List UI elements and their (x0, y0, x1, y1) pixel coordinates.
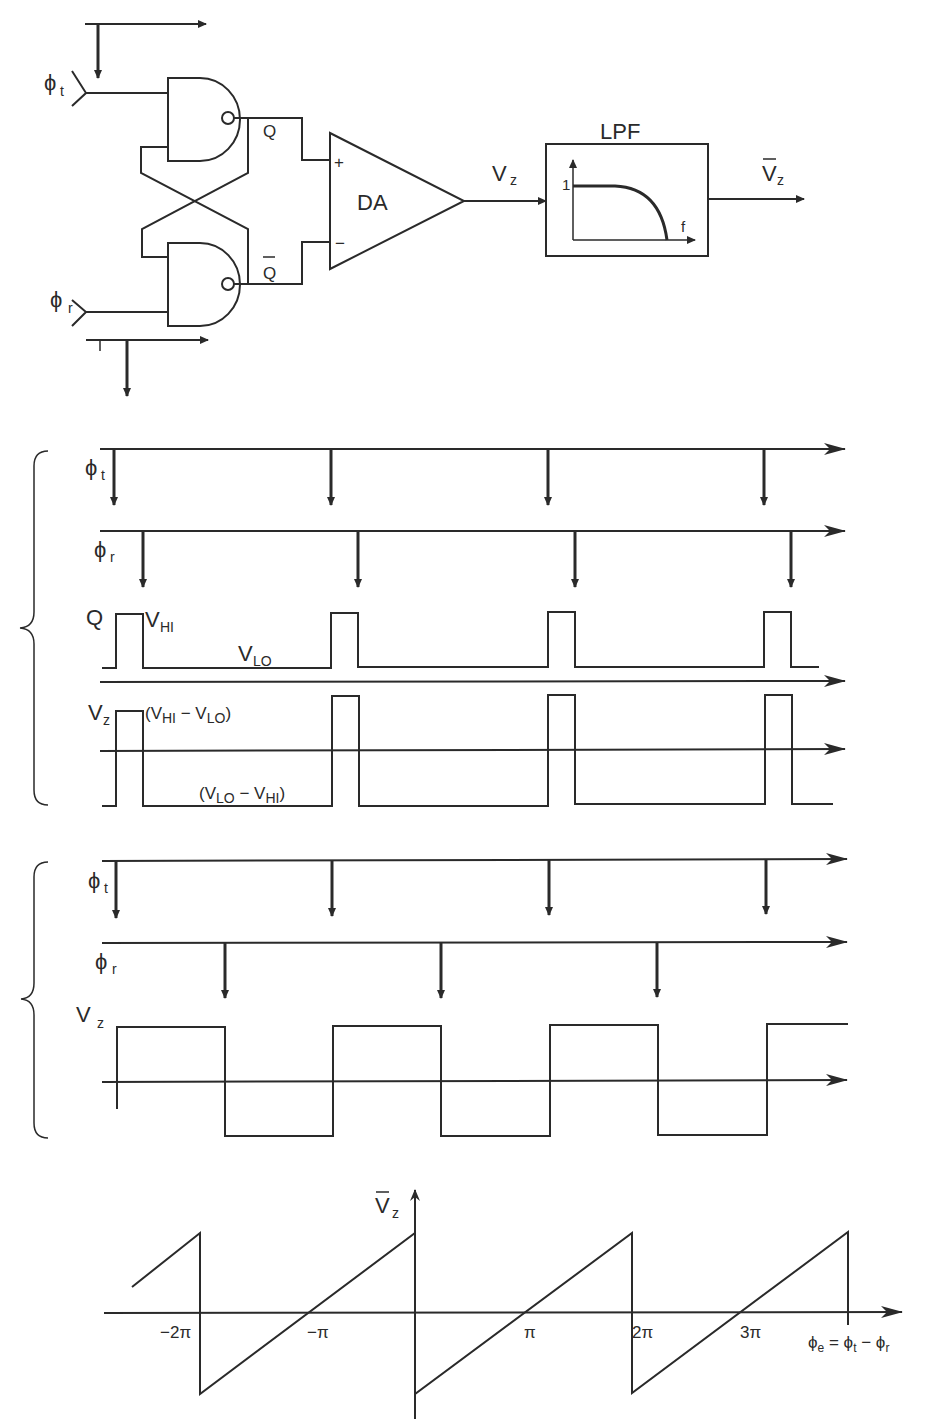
phase-detector-circuit: ϕ t ϕ r (44, 24, 804, 396)
phi-t-events (116, 859, 766, 918)
phi-r-label: ϕ (95, 949, 107, 974)
phi-t-symbol: ϕ (44, 70, 56, 95)
vz-subscript: z (510, 172, 517, 188)
tick-label-minus-pi: −π (307, 1323, 329, 1342)
phi-r-subscript: r (68, 300, 73, 316)
vlo-label-sub: LO (253, 653, 272, 669)
phi-r-label-sub: r (110, 549, 115, 565)
section-brace (20, 451, 48, 805)
cross-coupling-wires (141, 118, 330, 284)
vz-bar-output-label: V z (762, 159, 784, 188)
phi-t-events (114, 449, 764, 505)
upper-nand-gate (168, 78, 240, 161)
svg-text:z: z (392, 1205, 399, 1221)
phi-t-subscript: t (60, 83, 64, 99)
phi-r-events (225, 942, 657, 998)
x-axis-label: ϕe = ϕt − ϕr (808, 1333, 889, 1355)
amp-minus-label: − (335, 234, 345, 253)
vz-trace-label-sub: z (97, 1015, 104, 1031)
amp-plus-label: + (334, 153, 344, 172)
phi-t-event-timeline (85, 24, 206, 78)
lpf-freq-label: f (681, 218, 686, 235)
phi-r-label: ϕ (94, 537, 106, 562)
phi-t-label-sub: t (104, 880, 108, 896)
svg-text:z: z (777, 172, 784, 188)
vz-high-level-label: (VHI − VLO) (145, 704, 231, 726)
phi-r-events (143, 531, 791, 587)
lower-nand-gate (168, 243, 240, 326)
vz-label: V (492, 161, 507, 186)
lpf-response-curve (573, 186, 667, 240)
q-waveform (102, 612, 819, 668)
vz-low-level-label: (VLO − VHI) (199, 784, 285, 806)
vhi-label: V (145, 607, 160, 632)
phase-detector-transfer-plot: V z −2π −π π 2π 3π ϕe = ϕt − ϕr (104, 1190, 902, 1419)
phi-r-timeline (102, 942, 847, 943)
q-trace-label: Q (86, 605, 103, 630)
svg-text:(VHI − VLO): (VHI − VLO) (145, 704, 231, 726)
lpf-gain-label: 1 (562, 176, 570, 193)
phi-r-label-sub: r (112, 961, 117, 977)
low-pass-filter-block: LPF 1 f (546, 119, 708, 256)
vz-zero-axis (100, 749, 845, 751)
timing-diagram-large-error: ϕ t ϕ r V z (21, 859, 848, 1138)
q-label: Q (263, 122, 276, 141)
differential-amplifier: DA + − (330, 133, 464, 269)
svg-text:V: V (762, 161, 777, 186)
timing-diagram-small-error: ϕ t ϕ r Q V HI V LO V z (VHI − VLO) (VLO… (20, 449, 845, 806)
phi-t-label: ϕ (85, 455, 97, 480)
svg-text:V: V (375, 1193, 390, 1218)
x-axis (104, 1312, 902, 1313)
lpf-title: LPF (600, 119, 640, 144)
phi-t-label-sub: t (101, 467, 105, 483)
tick-label-minus-2pi: −2π (160, 1323, 191, 1342)
phi-t-input: ϕ t (44, 70, 168, 106)
phi-t-label: ϕ (88, 868, 100, 893)
amp-label: DA (357, 190, 388, 215)
vz-trace-label: V (88, 700, 103, 725)
phi-r-input: ϕ r (50, 287, 168, 326)
q-bar-label: Q (263, 257, 276, 283)
vz-zero-axis (102, 1080, 847, 1082)
y-axis-label: V z (375, 1192, 399, 1221)
svg-text:ϕe = ϕt − ϕr: ϕe = ϕt − ϕr (808, 1333, 889, 1355)
tick-label-pi: π (524, 1323, 536, 1342)
q-time-axis (100, 681, 845, 682)
svg-text:Q: Q (263, 264, 276, 283)
vlo-label: V (238, 641, 253, 666)
diagram-canvas: ϕ t ϕ r (0, 0, 927, 1426)
tick-label-3pi: 3π (740, 1323, 761, 1342)
phi-r-symbol: ϕ (50, 287, 62, 312)
phi-r-event-timeline (86, 340, 208, 396)
vz-trace-label-sub: z (103, 712, 110, 728)
tick-label-2pi: 2π (632, 1323, 653, 1342)
phi-t-timeline (102, 859, 847, 861)
svg-text:(VLO − VHI): (VLO − VHI) (199, 784, 285, 806)
vhi-label-sub: HI (160, 619, 174, 635)
vz-trace-label: V (76, 1002, 91, 1027)
section-brace (21, 862, 48, 1138)
